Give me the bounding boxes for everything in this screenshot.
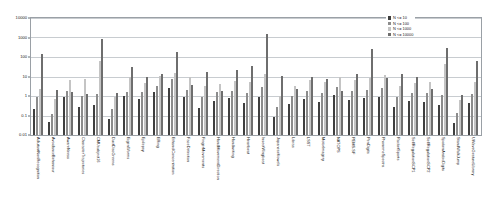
x-axis-tick-label-text: PhonemeSpectra — [381, 137, 385, 167]
bar-group — [436, 18, 451, 135]
bar — [326, 79, 328, 135]
x-axis-tick-label: PenDigits — [363, 137, 373, 203]
bar — [461, 95, 463, 135]
bar — [146, 77, 148, 135]
y-axis-tick-label: 100 — [20, 55, 27, 59]
bar — [86, 94, 88, 135]
x-axis-tick-label: HandMovementDirection — [213, 137, 223, 203]
bar — [266, 34, 268, 135]
x-axis-tick-label: FingerMovements — [198, 137, 208, 203]
bar — [401, 74, 403, 135]
x-axis-tick-label: DuctDiscGreens — [108, 137, 118, 203]
x-axis-tick-label: JapaneseVowels — [273, 137, 283, 203]
bar-group — [151, 18, 166, 135]
y-axis-tick-label: 10 — [22, 74, 27, 78]
bar-group — [466, 18, 481, 135]
bar-group — [211, 18, 226, 135]
legend-item[interactable]: N <= 10000 — [388, 33, 413, 37]
legend-swatch-icon — [388, 22, 391, 25]
x-axis-tick-label: NATOPS — [333, 137, 343, 203]
bar-group — [181, 18, 196, 135]
x-axis-tick-label: RacketSports — [393, 137, 403, 203]
bar — [206, 72, 208, 135]
x-axis-tick-label: UWaveGestureLibrary — [468, 137, 478, 203]
x-axis-tick-label: Libras — [288, 137, 298, 203]
bar-group — [316, 18, 331, 135]
bar-group — [346, 18, 361, 135]
x-axis-tick-label-text: MotorImagery — [321, 137, 325, 161]
x-axis-tick-label-text: SpokenArabicDigits — [441, 137, 445, 171]
x-axis-tick-label-text: PEMS-SF — [351, 137, 355, 154]
bar-group — [76, 18, 91, 135]
bar-group — [286, 18, 301, 135]
x-axis-tick-label-text: Handwriting — [231, 137, 235, 158]
x-axis-tick-label: SelfRegulationSCP2 — [423, 137, 433, 203]
bar — [221, 91, 223, 135]
x-axis-tick-label-text: CharacterTrajectories — [81, 137, 85, 174]
x-axis-tick-label: Heartbeat — [243, 137, 253, 203]
bar-group — [451, 18, 466, 135]
bar — [116, 93, 118, 135]
x-axis-tick-label: AvoidanceBehaviour — [48, 137, 58, 203]
x-axis-tick-label: PhonemeSpectra — [378, 137, 388, 203]
bar — [191, 85, 193, 135]
legend-item-label: N <= 1000 — [393, 27, 411, 31]
bar-group — [301, 18, 316, 135]
x-axis-tick-label-text: AvoidanceBehaviour — [51, 137, 55, 173]
bar-group — [106, 18, 121, 135]
x-axis-tick-label-text: PenDigits — [366, 137, 370, 154]
bar — [416, 77, 418, 136]
x-axis-tick-label-text: CMUsubject16 — [96, 137, 100, 163]
x-axis-tick-label-text: FingerMovements — [201, 137, 205, 168]
x-axis-tick-label: MotorImagery — [318, 137, 328, 203]
gridline — [31, 135, 481, 136]
bar — [341, 91, 343, 135]
legend-item-label: N <= 10000 — [393, 33, 413, 37]
x-axis-tick-label-text: Libras — [291, 137, 295, 148]
y-axis-tick-label: 1 — [25, 94, 27, 98]
x-axis-tick-label-text: AwareNeess — [66, 137, 70, 159]
x-axis-tick-label-text: JapaneseVowels — [276, 137, 280, 166]
x-axis-tick-label-text: SelfRegulationSCP1 — [411, 137, 415, 172]
x-axis-tick-label: Epilepsy — [138, 137, 148, 203]
bar — [356, 74, 358, 135]
bar — [251, 66, 253, 135]
x-axis-tick-label-text: StandWalkJump — [456, 137, 460, 165]
x-axis-tick-label-text: AdiutantNonRecognition — [36, 137, 40, 179]
legend-item[interactable]: N <= 10 — [388, 16, 413, 20]
x-axis-tick-label-text: LSST — [306, 137, 310, 147]
x-axis-tick-label-text: InsectWingbeat — [261, 137, 265, 164]
x-axis-tick-label-text: NATOPS — [336, 137, 340, 153]
bar — [281, 76, 283, 135]
bar — [386, 78, 388, 135]
bar-group — [136, 18, 151, 135]
y-axis-tick-label: 10000 — [16, 16, 27, 20]
legend-item[interactable]: N <= 1000 — [388, 27, 413, 31]
x-axis-tick-label: CMUsubject16 — [93, 137, 103, 203]
bar — [176, 52, 178, 135]
x-axis-tick-label-text: EigenWorms — [126, 137, 130, 159]
bar-group — [166, 18, 181, 135]
y-axis: 1000010001001010.10.01 — [0, 17, 30, 136]
bar — [431, 89, 433, 135]
bar-group — [196, 18, 211, 135]
x-axis-tick-label: AdiutantNonRecognition — [33, 137, 43, 203]
bar-group — [241, 18, 256, 135]
x-axis-tick-label-text: DuctDiscGreens — [111, 137, 115, 165]
x-axis-tick-label: InsectWingbeat — [258, 137, 268, 203]
bar — [71, 92, 73, 135]
y-axis-tick-label: 1000 — [18, 35, 27, 39]
bar — [476, 61, 478, 135]
x-axis-tick-label: ERing — [153, 137, 163, 203]
x-axis-tick-label: SelfRegulationSCP1 — [408, 137, 418, 203]
bar-group — [226, 18, 241, 135]
x-axis-tick-label: SpokenArabicDigits — [438, 137, 448, 203]
bar-group — [46, 18, 61, 135]
x-axis-tick-label-text: HandMovementDirection — [216, 137, 220, 180]
legend-item[interactable]: N <= 100 — [388, 22, 413, 26]
x-axis-tick-label-text: EthanolConcentration — [171, 137, 175, 174]
bar — [101, 39, 103, 135]
bar-group — [91, 18, 106, 135]
x-axis-tick-label: Handwriting — [228, 137, 238, 203]
y-axis-tick-label: 0.1 — [21, 113, 27, 117]
